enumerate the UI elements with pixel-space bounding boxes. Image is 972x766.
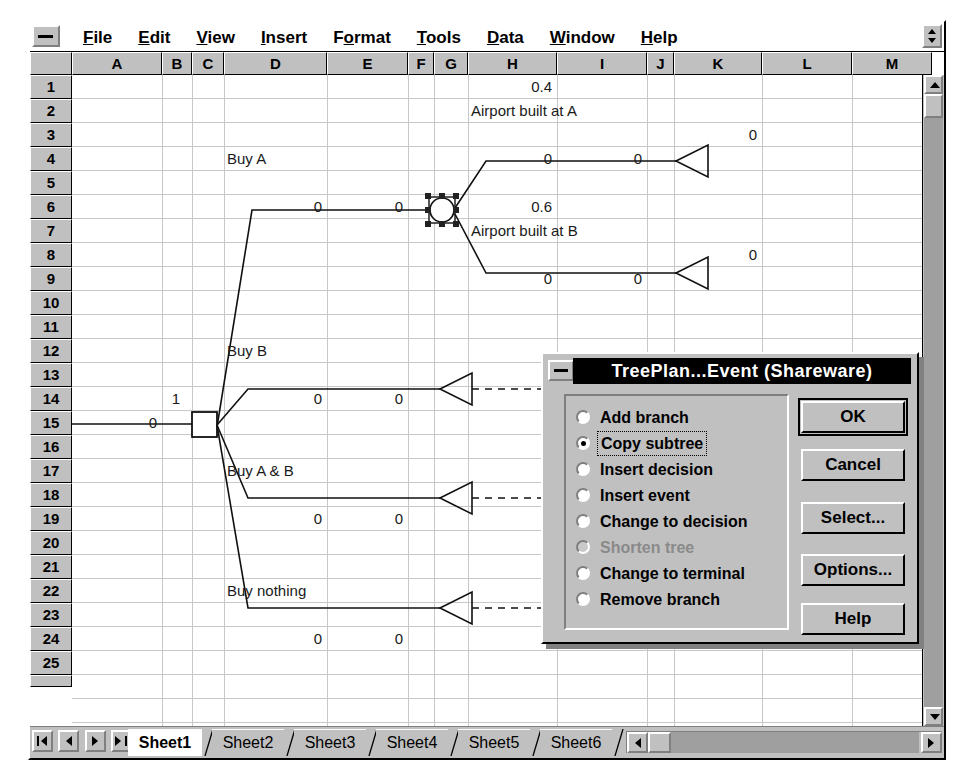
column-header-C[interactable]: C [192,52,224,75]
cell-I4[interactable]: 0 [560,148,642,170]
column-header-K[interactable]: K [674,52,762,75]
row-header-8[interactable]: 8 [30,243,72,267]
column-header-D[interactable]: D [224,52,327,75]
row-header-23[interactable]: 23 [30,603,72,627]
cell-D19[interactable]: 0 [227,508,322,530]
cell-D24[interactable]: 0 [227,628,322,650]
radio-option-copy-subtree[interactable]: Copy subtree [576,431,781,457]
row-header-15[interactable]: 15 [30,411,72,435]
column-header-L[interactable]: L [762,52,852,75]
vertical-scroll-track[interactable] [924,118,943,707]
cell-K8[interactable]: 0 [677,244,757,266]
row-header-24[interactable]: 24 [30,627,72,651]
cell-A15[interactable]: 0 [75,412,157,434]
hscroll-right-button[interactable] [921,732,942,753]
column-header-J[interactable]: J [647,52,674,75]
scroll-down-button[interactable] [924,707,943,726]
column-header-B[interactable]: B [162,52,192,75]
dialog-system-menu-button[interactable] [548,360,574,381]
menu-view[interactable]: View [183,22,247,50]
cell-E19[interactable]: 0 [330,508,403,530]
cell-B14[interactable]: 1 [165,388,187,410]
row-header-19[interactable]: 19 [30,507,72,531]
cell-D14[interactable]: 0 [227,388,322,410]
sheet-tab-sheet1[interactable]: Sheet1 [128,729,202,756]
row-header-10[interactable]: 10 [30,291,72,315]
menu-edit[interactable]: Edit [125,22,183,50]
row-header-11[interactable]: 11 [30,315,72,339]
radio-option-change-to-decision[interactable]: Change to decision [576,509,781,535]
cell-D12[interactable]: Buy B [227,340,267,362]
menu-scroll-buttons[interactable] [922,24,942,48]
dialog-button-help[interactable]: Help [801,603,905,635]
horizontal-scrollbar[interactable] [626,731,942,753]
cell-H1[interactable]: 0.4 [471,76,552,98]
dialog-button-options-[interactable]: Options... [801,554,905,586]
menu-tools[interactable]: Tools [404,22,474,50]
prev-sheet-button[interactable] [58,730,79,752]
hscroll-left-button[interactable] [627,732,648,753]
menu-help[interactable]: Help [628,22,691,50]
row-header-6[interactable]: 6 [30,195,72,219]
cell-E6[interactable]: 0 [330,196,403,218]
row-header-9[interactable]: 9 [30,267,72,291]
radio-option-insert-event[interactable]: Insert event [576,483,781,509]
hscroll-track[interactable] [671,732,919,753]
radio-option-add-branch[interactable]: Add branch [576,405,781,431]
sheet-tab-sheet3[interactable]: Sheet3 [294,729,366,756]
cell-D6[interactable]: 0 [227,196,322,218]
sheet-tab-sheet5[interactable]: Sheet5 [458,729,530,756]
row-header-18[interactable]: 18 [30,483,72,507]
cell-H4[interactable]: 0 [471,148,552,170]
row-header-7[interactable]: 7 [30,219,72,243]
sheet-tab-sheet2[interactable]: Sheet2 [212,729,284,756]
cell-H9[interactable]: 0 [471,268,552,290]
sheet-tab-sheet6[interactable]: Sheet6 [540,729,612,756]
cell-E24[interactable]: 0 [330,628,403,650]
row-header-1[interactable]: 1 [30,75,72,99]
cell-I9[interactable]: 0 [560,268,642,290]
row-header-5[interactable]: 5 [30,171,72,195]
row-header-14[interactable]: 14 [30,387,72,411]
menu-file[interactable]: File [70,22,125,50]
dialog-button-ok[interactable]: OK [801,401,905,433]
vertical-scroll-thumb[interactable] [924,94,943,118]
window-system-menu-button[interactable] [32,25,60,47]
column-header-F[interactable]: F [408,52,434,75]
column-header-E[interactable]: E [327,52,408,75]
menu-data[interactable]: Data [474,22,537,50]
dialog-button-select-[interactable]: Select... [801,502,905,534]
vertical-scrollbar[interactable] [922,75,944,726]
row-header-25[interactable]: 25 [30,651,72,675]
column-header-I[interactable]: I [557,52,647,75]
row-header-22[interactable]: 22 [30,579,72,603]
row-header-2[interactable]: 2 [30,99,72,123]
cell-H2[interactable]: Airport built at A [471,100,577,122]
cell-H7[interactable]: Airport built at B [471,220,578,242]
row-header-3[interactable]: 3 [30,123,72,147]
radio-option-insert-decision[interactable]: Insert decision [576,457,781,483]
first-sheet-button[interactable] [32,730,53,752]
column-header-M[interactable]: M [852,52,932,75]
row-header-4[interactable]: 4 [30,147,72,171]
row-header-17[interactable]: 17 [30,459,72,483]
cell-D17[interactable]: Buy A & B [227,460,294,482]
column-header-H[interactable]: H [468,52,557,75]
row-header-21[interactable]: 21 [30,555,72,579]
cell-D22[interactable]: Buy nothing [227,580,306,602]
row-header-16[interactable]: 16 [30,435,72,459]
cell-H6[interactable]: 0.6 [471,196,552,218]
row-header-13[interactable]: 13 [30,363,72,387]
row-header-12[interactable]: 12 [30,339,72,363]
hscroll-thumb[interactable] [648,732,671,753]
next-sheet-button[interactable] [85,730,106,752]
menu-insert[interactable]: Insert [248,22,320,50]
sheet-tab-sheet4[interactable]: Sheet4 [376,729,448,756]
column-header-A[interactable]: A [72,52,162,75]
menu-format[interactable]: Format [320,22,404,50]
cell-D4[interactable]: Buy A [227,148,266,170]
row-header-26[interactable] [30,675,72,687]
scroll-up-button[interactable] [924,75,943,94]
radio-option-remove-branch[interactable]: Remove branch [576,587,781,613]
select-all-corner[interactable] [30,52,72,75]
